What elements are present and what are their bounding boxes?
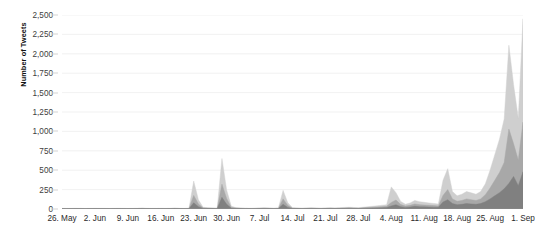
y-tick-mark bbox=[51, 150, 58, 151]
y-tick-mark bbox=[51, 112, 58, 113]
y-tick-mark bbox=[51, 73, 58, 74]
tweet-volume-chart: Number of Tweets 02505007501,0001,2501,5… bbox=[0, 0, 535, 237]
y-tick-mark bbox=[51, 170, 58, 171]
y-tick-label: 2,000 bbox=[33, 49, 54, 58]
x-tick-label: 18. Aug bbox=[443, 214, 471, 223]
x-tick-label: 2. Jun bbox=[84, 214, 106, 223]
y-tick-label: 1,750 bbox=[33, 69, 54, 78]
y-axis-tick-labels: 02505007501,0001,2501,5001,7502,0002,250… bbox=[0, 0, 58, 237]
plot-area bbox=[62, 15, 523, 209]
y-tick-mark bbox=[51, 53, 58, 54]
y-tick-mark bbox=[51, 15, 58, 16]
x-tick-label: 4. Aug bbox=[380, 214, 403, 223]
y-tick-label: 1,250 bbox=[33, 108, 54, 117]
x-tick-label: 21. Jul bbox=[313, 214, 337, 223]
y-tick-mark bbox=[51, 92, 58, 93]
y-tick-mark bbox=[51, 131, 58, 132]
x-tick-label: 26. May bbox=[47, 214, 76, 223]
x-tick-label: 30. Jun bbox=[213, 214, 240, 223]
y-tick-label: 2,500 bbox=[33, 11, 54, 20]
y-tick-mark bbox=[51, 34, 58, 35]
x-tick-label: 28. Jul bbox=[346, 214, 370, 223]
stacked-area-svg bbox=[62, 15, 523, 209]
x-tick-label: 16. Jun bbox=[147, 214, 174, 223]
x-tick-label: 11. Aug bbox=[411, 214, 438, 223]
y-tick-label: 1,000 bbox=[33, 127, 54, 136]
x-tick-label: 23. Jun bbox=[180, 214, 207, 223]
x-tick-label: 25. Aug bbox=[476, 214, 504, 223]
y-tick-label: 2,250 bbox=[33, 30, 54, 39]
x-tick-label: 7. Jul bbox=[250, 214, 270, 223]
y-tick-mark bbox=[51, 189, 58, 190]
y-tick-mark bbox=[51, 209, 58, 210]
x-tick-label: 1. Sep bbox=[511, 214, 535, 223]
area-series-light bbox=[62, 19, 523, 209]
y-tick-label: 1,500 bbox=[33, 88, 54, 97]
x-axis-tick-labels: 26. May2. Jun9. Jun16. Jun23. Jun30. Jun… bbox=[0, 214, 535, 230]
x-tick-label: 14. Jul bbox=[280, 214, 304, 223]
x-tick-label: 9. Jun bbox=[117, 214, 139, 223]
